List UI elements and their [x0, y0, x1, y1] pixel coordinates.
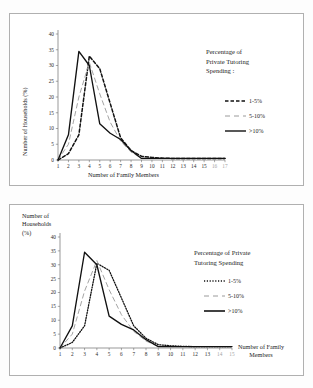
- x-tick-label: 14: [217, 351, 223, 357]
- series-line-1-5-: [60, 263, 232, 348]
- x-tick-label: 1: [57, 163, 60, 169]
- x-tick-label: 13: [181, 163, 187, 169]
- y-tick-label: 25: [49, 78, 55, 84]
- legend-item-5-10-percent-bottom[interactable]: 5-10%: [204, 293, 244, 299]
- legend-label: 5-10%: [228, 293, 244, 299]
- series-line-1-5-: [58, 56, 225, 160]
- chart-figure-bottom: 0510152025303540123456789101112131415 Nu…: [9, 204, 304, 376]
- y-axis-title-bottom: Number ofHouseholds(%): [22, 212, 51, 237]
- y-tick-label: 15: [51, 303, 57, 309]
- x-tick-label: 2: [67, 163, 70, 169]
- x-tick-label: 5: [108, 351, 111, 357]
- legend-swatch-dash-gap-icon: [204, 293, 225, 299]
- x-tick-label: 4: [96, 351, 99, 357]
- x-tick-label: 15: [229, 351, 235, 357]
- x-tick-label: 5: [98, 163, 101, 169]
- x-tick-label: 17: [222, 163, 228, 169]
- x-tick-label: 10: [149, 163, 155, 169]
- x-tick-label: 15: [201, 163, 207, 169]
- legend-item-5-10-percent-top[interactable]: 5-10%: [225, 113, 265, 119]
- y-axis-title-top: Number of Households (%): [21, 87, 28, 156]
- x-tick-label: 3: [78, 163, 81, 169]
- y-tick-label: 20: [51, 289, 57, 295]
- legend-label: 1-5%: [228, 278, 241, 284]
- x-tick-label: 12: [192, 351, 198, 357]
- x-tick-label: 14: [191, 163, 197, 169]
- y-tick-label: 5: [51, 141, 54, 147]
- legend-swatch-dash-gap-icon: [225, 113, 246, 119]
- legend-item-1-5-percent-bottom[interactable]: 1-5%: [204, 278, 241, 284]
- x-tick-label: 13: [205, 351, 211, 357]
- y-tick-label: 20: [49, 94, 55, 100]
- x-tick-label: 6: [120, 351, 123, 357]
- y-tick-label: 15: [49, 110, 55, 116]
- x-tick-label: 8: [130, 163, 133, 169]
- legend-title-top: Percentage ofPrivate TutoringSpending :: [206, 47, 249, 76]
- x-axis-title-line: Members: [238, 351, 284, 359]
- y-tick-label: 25: [51, 276, 57, 282]
- y-tick-label: 30: [51, 262, 57, 268]
- x-tick-label: 11: [180, 351, 185, 357]
- x-tick-label: 7: [119, 163, 122, 169]
- x-tick-label: 1: [59, 351, 62, 357]
- legend-label: 5-10%: [249, 113, 265, 119]
- x-tick-label: 8: [145, 351, 148, 357]
- y-tick-label: 0: [53, 345, 56, 351]
- series-line-5-10-: [60, 261, 232, 348]
- x-tick-label: 3: [83, 351, 86, 357]
- x-tick-label: 7: [132, 351, 135, 357]
- document-page: 0510152025303540123456789101112131415161…: [0, 0, 313, 388]
- y-tick-label: 10: [49, 125, 55, 131]
- legend-label: 1-5%: [249, 98, 262, 104]
- legend-title-line: Tutoring Spending: [194, 258, 250, 268]
- legend-label: >10%: [249, 128, 263, 134]
- legend-item-over-10-percent-top[interactable]: >10%: [225, 128, 263, 134]
- legend-swatch-solid-icon: [204, 308, 225, 314]
- x-tick-label: 16: [212, 163, 218, 169]
- x-axis-title-top: Number of Family Members: [88, 171, 159, 178]
- x-tick-label: 4: [88, 163, 91, 169]
- legend-title-line: Percentage of Private: [194, 248, 250, 258]
- x-tick-label: 2: [71, 351, 74, 357]
- x-axis-title-line: Number of Family: [238, 343, 284, 351]
- y-tick-label: 40: [49, 31, 55, 37]
- legend-title-line: Private Tutoring: [206, 57, 249, 67]
- x-tick-label: 9: [140, 163, 143, 169]
- y-axis-title-line: (%): [22, 229, 51, 237]
- plot-area-top: 0510152025303540123456789101112131415161…: [10, 14, 303, 185]
- y-tick-label: 0: [51, 157, 54, 163]
- y-axis-title-line: Number of: [22, 212, 51, 220]
- legend-label: >10%: [228, 308, 242, 314]
- x-tick-label: 11: [160, 163, 165, 169]
- y-tick-label: 30: [49, 62, 55, 68]
- x-tick-label: 9: [157, 351, 160, 357]
- series-line-5-10-: [58, 62, 225, 160]
- legend-swatch-solid-icon: [225, 128, 246, 134]
- x-axis-title-bottom: Number of FamilyMembers: [238, 343, 284, 360]
- legend-title-line: Percentage of: [206, 47, 249, 57]
- legend-swatch-dotted-icon: [204, 278, 225, 284]
- plot-area-bottom: 0510152025303540123456789101112131415 Nu…: [10, 205, 303, 375]
- legend-item-over-10-percent-bottom[interactable]: >10%: [204, 308, 242, 314]
- x-tick-label: 6: [109, 163, 112, 169]
- x-tick-label: 12: [170, 163, 176, 169]
- legend-item-1-5-percent-top[interactable]: 1-5%: [225, 98, 262, 104]
- y-tick-label: 35: [49, 47, 55, 53]
- legend-title-line: Spending :: [206, 66, 249, 76]
- y-tick-label: 40: [51, 234, 57, 240]
- legend-title-bottom: Percentage of PrivateTutoring Spending: [194, 248, 250, 267]
- y-tick-label: 5: [53, 331, 56, 337]
- y-axis-title-line: Households: [22, 220, 51, 228]
- y-tick-label: 10: [51, 317, 57, 323]
- legend-swatch-dashed-icon: [225, 98, 246, 104]
- y-tick-label: 35: [51, 248, 57, 254]
- chart-figure-top: 0510152025303540123456789101112131415161…: [9, 13, 304, 186]
- x-tick-label: 10: [168, 351, 174, 357]
